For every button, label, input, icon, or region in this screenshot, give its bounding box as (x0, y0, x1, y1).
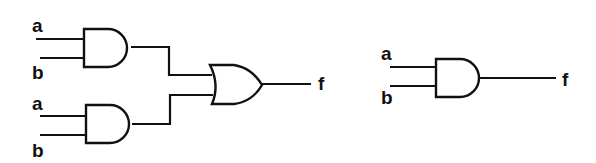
logic-diagram: a b a b f a b f (0, 0, 596, 163)
output-label: f (562, 69, 569, 90)
input-label: b (32, 140, 44, 161)
left-circuit: a b a b f (32, 15, 325, 161)
input-label: b (32, 62, 44, 83)
and-gate-1: a b (32, 15, 127, 83)
and-gate-2: a b (32, 93, 129, 161)
input-label: a (32, 15, 43, 36)
input-label: b (381, 87, 393, 108)
input-label: a (32, 93, 43, 114)
output-label: f (318, 73, 325, 94)
input-label: a (381, 43, 392, 64)
wire (132, 95, 213, 124)
wire (131, 47, 212, 75)
or-gate: f (210, 65, 325, 104)
right-circuit: a b f (381, 43, 569, 108)
